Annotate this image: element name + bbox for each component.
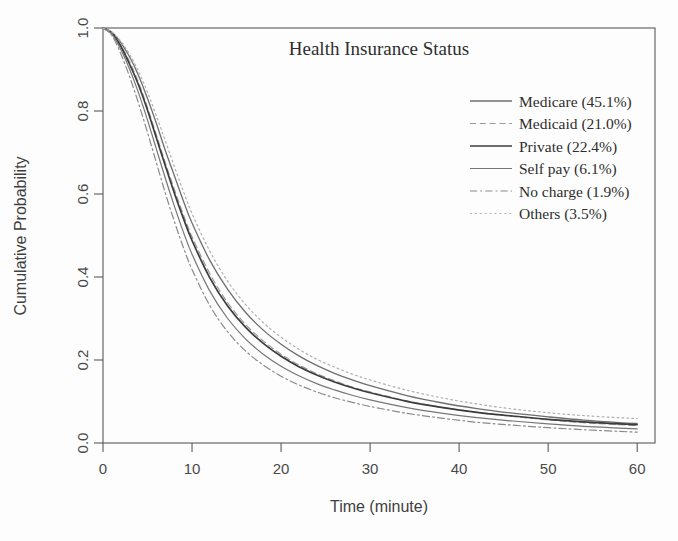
y-tick-label: 0.0 — [74, 433, 91, 454]
y-tick-label: 0.2 — [74, 350, 91, 371]
x-tick-label: 50 — [540, 460, 557, 477]
x-tick-label: 40 — [451, 460, 468, 477]
y-tick-label: 0.8 — [74, 101, 91, 122]
series-line — [103, 28, 637, 419]
plot-frame — [103, 28, 655, 443]
x-tick-label: 10 — [184, 460, 201, 477]
chart-figure: 0102030405060 0.00.20.40.60.81.0 Medicar… — [0, 0, 678, 541]
y-axis-title: Cumulative Probability — [12, 156, 29, 315]
y-tick-label: 1.0 — [74, 18, 91, 39]
chart-legend: Medicare (45.1%)Medicaid (21.0%)Private … — [470, 93, 632, 224]
x-tick-label: 0 — [99, 460, 107, 477]
x-tick-label: 60 — [629, 460, 646, 477]
series-line — [103, 28, 637, 425]
legend-label: Medicare (45.1%) — [519, 93, 632, 111]
legend-label: Medicaid (21.0%) — [519, 115, 632, 133]
legend-label: Private (22.4%) — [519, 138, 617, 156]
series-lines — [103, 28, 637, 432]
y-tick-label: 0.4 — [74, 267, 91, 288]
chart-canvas: 0102030405060 0.00.20.40.60.81.0 Medicar… — [0, 0, 678, 541]
x-tick-label: 30 — [362, 460, 379, 477]
y-axis-ticks: 0.00.20.40.60.81.0 — [74, 18, 103, 454]
legend-label: No charge (1.9%) — [519, 183, 629, 201]
chart-title: Health Insurance Status — [289, 38, 469, 59]
x-axis-ticks: 0102030405060 — [99, 443, 646, 477]
series-line — [103, 28, 637, 429]
series-line — [103, 28, 637, 426]
legend-label: Self pay (6.1%) — [519, 160, 617, 178]
y-tick-label: 0.6 — [74, 184, 91, 205]
series-line — [103, 28, 637, 424]
legend-label: Others (3.5%) — [519, 205, 607, 223]
x-axis-title: Time (minute) — [330, 498, 428, 515]
x-tick-label: 20 — [273, 460, 290, 477]
